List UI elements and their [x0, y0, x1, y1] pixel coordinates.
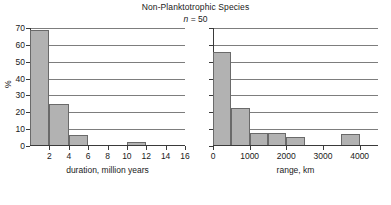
- figure-title: Non-Planktotrophic Species: [0, 2, 391, 13]
- panel-range: range, km 01000200030004000: [213, 28, 378, 171]
- x-axis-tick: [213, 146, 214, 150]
- x-axis-tick: [127, 146, 128, 150]
- x-axis-tick-label: 0: [198, 151, 228, 161]
- gridline: [30, 45, 185, 46]
- x-axis-tick: [69, 146, 70, 150]
- x-axis-tick-label: 2000: [271, 151, 301, 161]
- gridline: [213, 95, 378, 96]
- histogram-bar: [30, 30, 49, 146]
- x-axis-line: [213, 145, 378, 146]
- figure-container: Non-Planktotrophic Species n = 50 % 0102…: [0, 0, 391, 205]
- x-axis-tick: [146, 146, 147, 150]
- y-axis-tick-label: 60: [3, 41, 25, 49]
- y-axis-tick-label: 0: [3, 142, 25, 150]
- y-axis-tick: [26, 146, 30, 147]
- gridline: [213, 45, 378, 46]
- x-axis-tick-label: 4000: [345, 151, 375, 161]
- x-axis-tick: [49, 146, 50, 150]
- x-axis-tick: [250, 146, 251, 150]
- x-axis-tick: [185, 146, 186, 150]
- plot-area-range: [213, 28, 378, 146]
- y-axis-tick: [209, 45, 213, 46]
- x-axis-tick-label: 16: [170, 151, 200, 161]
- gridline: [213, 79, 378, 80]
- sample-size-value: = 50: [188, 14, 207, 24]
- gridline: [213, 28, 378, 29]
- gridline: [213, 62, 378, 63]
- gridline: [30, 95, 185, 96]
- x-axis-label-duration: duration, million years: [30, 165, 185, 175]
- y-axis-tick-label: 70: [3, 24, 25, 32]
- gridline: [30, 79, 185, 80]
- histogram-bar: [213, 52, 231, 146]
- gridline: [30, 62, 185, 63]
- sample-size-symbol: n: [184, 14, 189, 24]
- sample-size-annotation: n = 50: [0, 14, 391, 25]
- x-axis-tick: [286, 146, 287, 150]
- panel-duration: 010203040506070 duration, million years …: [30, 28, 185, 171]
- x-axis-tick: [360, 146, 361, 150]
- x-axis-tick: [88, 146, 89, 150]
- gridline: [30, 28, 185, 29]
- y-axis-tick-label: 50: [3, 58, 25, 66]
- x-axis-tick-label: 1000: [235, 151, 265, 161]
- histogram-bar: [49, 104, 68, 146]
- y-axis-tick-label: 20: [3, 108, 25, 116]
- x-axis-tick: [323, 146, 324, 150]
- y-axis-tick: [209, 28, 213, 29]
- x-axis-tick: [166, 146, 167, 150]
- x-axis-tick: [108, 146, 109, 150]
- x-axis-tick-label: 3000: [308, 151, 338, 161]
- plot-area-duration: 010203040506070: [30, 28, 185, 146]
- y-axis-tick-label: 30: [3, 91, 25, 99]
- y-axis-tick-label: 10: [3, 125, 25, 133]
- y-axis-tick-label: 40: [3, 75, 25, 83]
- x-axis-label-range: range, km: [213, 165, 378, 175]
- histogram-bar: [231, 108, 249, 146]
- figure-title-block: Non-Planktotrophic Species n = 50: [0, 2, 391, 25]
